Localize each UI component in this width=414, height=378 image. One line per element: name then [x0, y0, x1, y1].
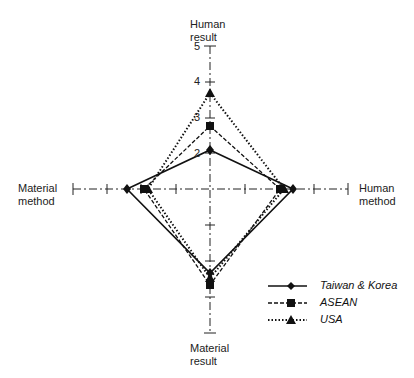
axis-title-right: Human method — [359, 182, 409, 208]
series-usa — [148, 93, 284, 278]
tick-label-3: 3 — [194, 111, 200, 124]
axis-title-top-line1: Human — [190, 18, 234, 31]
axis-title-right-line1: Human — [359, 182, 409, 195]
legend-label: Taiwan & Korea — [320, 279, 397, 291]
legend-label: ASEAN — [320, 296, 357, 308]
markers-asean — [140, 122, 284, 289]
tick-label-4: 4 — [194, 75, 200, 88]
axis-title-bottom: Material result — [190, 342, 250, 368]
axis-title-bottom-line1: Material — [190, 342, 250, 355]
legend-label: USA — [320, 313, 343, 325]
legend-swatches — [268, 282, 307, 324]
axis-title-left-line1: Material — [18, 182, 78, 195]
axis-title-right-line2: method — [359, 195, 409, 208]
axis-title-left-line2: method — [18, 195, 78, 208]
axis-title-top-line2: result — [190, 31, 234, 44]
tick-label-2: 2 — [194, 147, 200, 160]
axis-title-left: Material method — [18, 182, 78, 208]
markers-usa — [143, 88, 289, 282]
axis-title-top: Human result — [190, 18, 234, 44]
axis-title-bottom-line2: result — [190, 355, 250, 368]
